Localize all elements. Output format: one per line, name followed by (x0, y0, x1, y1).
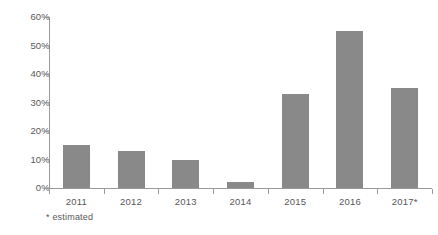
bar (172, 160, 199, 189)
x-axis-tick-label: 2011 (49, 196, 104, 207)
x-axis-tick-label: 2013 (158, 196, 213, 207)
x-axis-tick-mark (323, 189, 324, 194)
y-axis-tick: 50% (0, 41, 50, 51)
x-axis-tick-mark (268, 189, 269, 194)
x-axis-tick-label: 2015 (268, 196, 323, 207)
chart-footnote: * estimated (46, 212, 93, 223)
x-axis-tick-mark (432, 189, 433, 194)
bar (391, 88, 418, 188)
x-axis-tick-mark (158, 189, 159, 194)
y-axis-tick: 60% (0, 12, 50, 22)
y-axis-tick: 20% (0, 126, 50, 136)
y-axis-tick: 10% (0, 155, 50, 165)
plot-area (49, 17, 432, 188)
x-axis-tick-label: 2016 (323, 196, 378, 207)
x-axis-tick-label: 2014 (213, 196, 268, 207)
y-axis-tick: 40% (0, 69, 50, 79)
x-axis-tick-mark (104, 189, 105, 194)
x-axis-tick-mark (49, 189, 50, 194)
y-axis-tick: 30% (0, 98, 50, 108)
bar (336, 31, 363, 188)
bar-chart: 0%10%20%30%40%50%60% * estimated 2011201… (0, 0, 438, 235)
bar (227, 182, 254, 188)
bar (282, 94, 309, 188)
bar (63, 145, 90, 188)
y-axis-tick: 0% (0, 183, 50, 193)
x-axis-tick-label: 2017* (377, 196, 432, 207)
x-axis-tick-mark (213, 189, 214, 194)
x-axis-line (49, 188, 432, 189)
x-axis-tick-label: 2012 (104, 196, 159, 207)
x-axis-tick-mark (377, 189, 378, 194)
bar (118, 151, 145, 188)
